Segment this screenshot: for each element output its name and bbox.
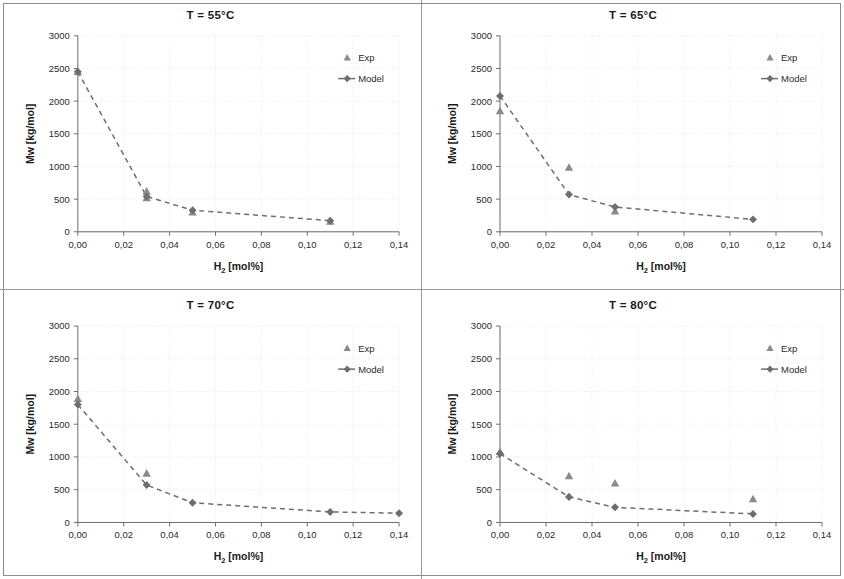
- svg-text:0,14: 0,14: [390, 239, 408, 250]
- svg-text:2500: 2500: [471, 63, 492, 74]
- svg-text:500: 500: [476, 194, 492, 205]
- svg-text:0,04: 0,04: [583, 529, 601, 540]
- svg-text:1500: 1500: [471, 418, 492, 429]
- svg-text:Mw [kg/mol]: Mw [kg/mol]: [447, 104, 458, 164]
- chart-svg-1: 0500100015002000250030000,000,020,040,06…: [422, 0, 844, 289]
- svg-text:2500: 2500: [471, 353, 492, 364]
- svg-text:0,02: 0,02: [114, 239, 132, 250]
- svg-text:2500: 2500: [49, 63, 70, 74]
- svg-text:0,10: 0,10: [721, 529, 739, 540]
- svg-text:H2 [mol%]: H2 [mol%]: [214, 551, 264, 565]
- svg-text:Mw [kg/mol]: Mw [kg/mol]: [25, 104, 36, 164]
- chart-panel-2: T = 70°C 0500100015002000250030000,000,0…: [0, 290, 422, 579]
- chart-panel-1: T = 65°C 0500100015002000250030000,000,0…: [422, 0, 844, 290]
- plot-area: 0500100015002000250030000,000,020,040,06…: [422, 0, 844, 289]
- svg-text:0,04: 0,04: [160, 529, 178, 540]
- svg-text:0: 0: [487, 516, 492, 527]
- plot-area: 0500100015002000250030000,000,020,040,06…: [0, 0, 421, 289]
- svg-text:0,02: 0,02: [537, 239, 555, 250]
- svg-text:1000: 1000: [471, 451, 492, 462]
- svg-text:1500: 1500: [49, 128, 70, 139]
- svg-text:0,14: 0,14: [813, 529, 831, 540]
- svg-text:2000: 2000: [49, 385, 70, 396]
- svg-text:0,00: 0,00: [491, 239, 509, 250]
- svg-text:Exp: Exp: [781, 342, 797, 353]
- svg-text:3000: 3000: [49, 320, 70, 331]
- svg-text:H2 [mol%]: H2 [mol%]: [636, 550, 686, 565]
- svg-text:0,04: 0,04: [160, 239, 178, 250]
- svg-text:0,00: 0,00: [69, 529, 87, 540]
- svg-text:Mw [kg/mol]: Mw [kg/mol]: [25, 393, 36, 454]
- chart-svg-2: 0500100015002000250030000,000,020,040,06…: [0, 290, 421, 579]
- svg-text:500: 500: [54, 484, 70, 495]
- plot-area: 0500100015002000250030000,000,020,040,06…: [422, 290, 844, 579]
- svg-text:1500: 1500: [471, 128, 492, 139]
- svg-text:Model: Model: [781, 363, 807, 374]
- svg-text:0,10: 0,10: [298, 239, 316, 250]
- svg-text:0: 0: [65, 516, 70, 527]
- svg-text:H2 [mol%]: H2 [mol%]: [214, 261, 264, 275]
- svg-text:1000: 1000: [49, 451, 70, 462]
- plot-area: 0500100015002000250030000,000,020,040,06…: [0, 290, 421, 579]
- svg-text:0,14: 0,14: [813, 239, 831, 250]
- svg-text:0,10: 0,10: [298, 529, 316, 540]
- svg-text:0,04: 0,04: [583, 239, 601, 250]
- svg-text:0,08: 0,08: [675, 239, 693, 250]
- svg-text:3000: 3000: [471, 30, 492, 41]
- svg-text:0,06: 0,06: [206, 239, 224, 250]
- svg-text:0,10: 0,10: [721, 239, 739, 250]
- chart-svg-0: 0500100015002000250030000,000,020,040,06…: [0, 0, 421, 289]
- svg-text:1000: 1000: [49, 161, 70, 172]
- svg-text:0,00: 0,00: [491, 529, 509, 540]
- svg-text:0: 0: [65, 226, 70, 237]
- svg-text:Model: Model: [358, 363, 384, 374]
- chart-svg-3: 0500100015002000250030000,000,020,040,06…: [422, 290, 844, 579]
- svg-text:Exp: Exp: [781, 52, 797, 63]
- svg-text:0,08: 0,08: [252, 529, 270, 540]
- svg-text:0,12: 0,12: [344, 239, 362, 250]
- svg-text:0,00: 0,00: [69, 239, 87, 250]
- svg-text:2000: 2000: [471, 96, 492, 107]
- svg-text:0,02: 0,02: [114, 529, 132, 540]
- svg-text:2500: 2500: [49, 353, 70, 364]
- svg-text:500: 500: [54, 194, 70, 205]
- multi-panel-figure: T = 55°C 0500100015002000250030000,000,0…: [0, 0, 844, 579]
- svg-text:0,06: 0,06: [629, 529, 647, 540]
- svg-text:500: 500: [476, 484, 492, 495]
- svg-text:Model: Model: [358, 73, 384, 84]
- chart-panel-3: T = 80°C 0500100015002000250030000,000,0…: [422, 290, 844, 579]
- svg-text:0,02: 0,02: [537, 529, 555, 540]
- svg-text:0,06: 0,06: [629, 239, 647, 250]
- svg-text:2000: 2000: [471, 385, 492, 396]
- svg-text:0,06: 0,06: [206, 529, 224, 540]
- svg-text:2000: 2000: [49, 96, 70, 107]
- svg-text:Model: Model: [781, 73, 807, 84]
- svg-text:0,12: 0,12: [767, 239, 785, 250]
- svg-text:0,12: 0,12: [767, 529, 785, 540]
- svg-text:1500: 1500: [49, 418, 70, 429]
- svg-text:Mw [kg/mol]: Mw [kg/mol]: [446, 393, 458, 454]
- svg-text:0: 0: [487, 226, 492, 237]
- svg-text:0,08: 0,08: [675, 529, 693, 540]
- svg-text:3000: 3000: [49, 30, 70, 41]
- svg-text:0,14: 0,14: [390, 529, 408, 540]
- svg-text:Exp: Exp: [358, 52, 374, 63]
- svg-text:0,08: 0,08: [252, 239, 270, 250]
- svg-text:0,12: 0,12: [344, 529, 362, 540]
- chart-panel-0: T = 55°C 0500100015002000250030000,000,0…: [0, 0, 422, 290]
- svg-text:H2 [mol%]: H2 [mol%]: [636, 261, 686, 275]
- svg-text:1000: 1000: [471, 161, 492, 172]
- svg-text:Exp: Exp: [358, 342, 374, 353]
- svg-text:3000: 3000: [471, 320, 492, 331]
